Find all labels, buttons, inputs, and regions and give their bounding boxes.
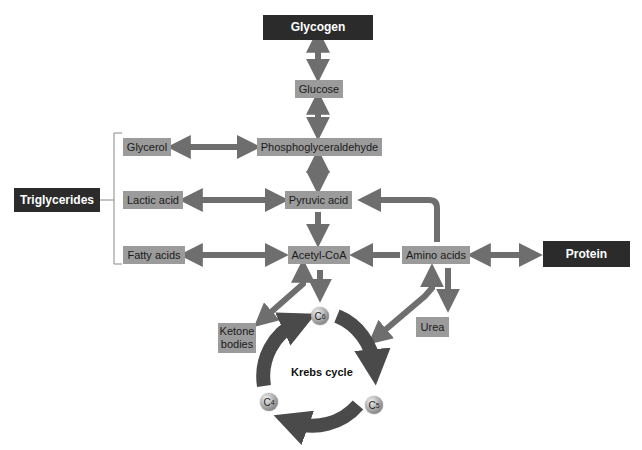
c6-letter: C — [314, 311, 321, 322]
c5-intermediate: C5 — [365, 396, 383, 414]
c5-sub: 5 — [376, 402, 380, 409]
c6-sub: 6 — [322, 313, 326, 320]
node-phosphoglyceraldehyde: Phosphoglyceraldehyde — [257, 138, 382, 156]
c5-letter: C — [368, 400, 375, 411]
node-glucose: Glucose — [295, 80, 343, 98]
c4-sub: 4 — [271, 399, 275, 406]
node-glycerol: Glycerol — [123, 138, 171, 156]
node-acetyl-coa: Acetyl-CoA — [288, 246, 350, 264]
arrow-acetyl-ketone — [262, 272, 303, 320]
node-protein: Protein — [543, 241, 630, 267]
krebs-cycle-label: Krebs cycle — [291, 366, 353, 378]
node-lactic-acid: Lactic acid — [123, 191, 183, 209]
node-pyruvic-acid: Pyruvic acid — [285, 191, 352, 209]
triglycerides-bracket — [100, 133, 122, 264]
node-triglycerides: Triglycerides — [14, 188, 100, 212]
node-urea: Urea — [416, 317, 449, 337]
c6-intermediate: C6 — [311, 307, 329, 325]
node-fatty-acids: Fatty acids — [123, 246, 185, 264]
c4-intermediate: C4 — [260, 393, 278, 411]
metabolism-diagram: Glycogen Glucose Phosphoglyceraldehyde G… — [0, 0, 642, 450]
arrow-amino-pyruvic — [368, 200, 437, 242]
node-ketone-bodies: Ketone bodies — [218, 323, 256, 353]
node-glycogen: Glycogen — [263, 15, 373, 40]
arrows-layer — [0, 0, 642, 450]
c4-letter: C — [263, 397, 270, 408]
node-amino-acids: Amino acids — [402, 246, 470, 264]
